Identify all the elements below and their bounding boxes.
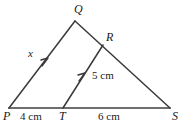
vertex-label-s: S [172, 110, 178, 122]
parallel-mark-pq-icon [41, 58, 48, 66]
measurement-label-ts: 6 cm [98, 111, 120, 122]
measurement-label-tr: 5 cm [92, 70, 114, 81]
vertex-label-q: Q [74, 3, 83, 15]
vertex-label-r: R [106, 31, 113, 43]
geometry-canvas [0, 0, 184, 126]
segment-PQ [9, 21, 75, 108]
side-length-label-x: x [28, 48, 33, 59]
segment-QS [75, 21, 170, 108]
vertex-label-p: P [3, 110, 10, 122]
geometry-figure: Q R P T S x 4 cm 6 cm 5 cm [0, 0, 184, 126]
measurement-label-pt: 4 cm [20, 111, 42, 122]
vertex-label-t: T [59, 110, 66, 122]
